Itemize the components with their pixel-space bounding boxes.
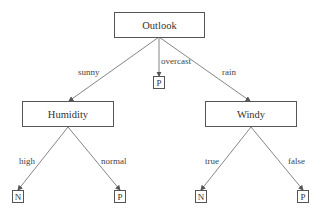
node-windy: Windy: [205, 101, 297, 127]
leaf-false: P: [297, 190, 309, 203]
edge-label-sunny: sunny: [78, 67, 100, 77]
edge-label-normal: normal: [101, 156, 127, 166]
edge-label-high: high: [19, 156, 35, 166]
node-outlook-label: Outlook: [142, 20, 176, 31]
leaf-true-label: N: [198, 192, 205, 202]
edge-label-rain: rain: [222, 67, 236, 77]
edge-label-overcast: overcast: [161, 56, 191, 66]
edge-label-true: true: [205, 156, 219, 166]
edge-rain: [159, 37, 250, 101]
node-outlook: Outlook: [114, 12, 205, 38]
node-humidity-label: Humidity: [48, 109, 88, 120]
node-windy-label: Windy: [237, 109, 265, 120]
leaf-normal: P: [114, 190, 126, 203]
leaf-high-label: N: [15, 192, 22, 202]
leaf-overcast-label: P: [156, 78, 161, 88]
leaf-true: N: [195, 190, 207, 203]
node-humidity: Humidity: [22, 101, 114, 127]
leaf-high: N: [12, 190, 24, 203]
leaf-false-label: P: [300, 192, 305, 202]
leaf-normal-label: P: [117, 192, 122, 202]
leaf-overcast: P: [153, 76, 165, 89]
edge-label-false: false: [288, 156, 305, 166]
